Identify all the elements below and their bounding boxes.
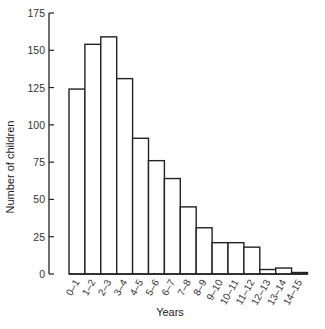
bar-9–10 (212, 243, 228, 274)
x-tick-label: 5–6 (143, 277, 161, 297)
histogram-chart: 0255075100125150175 0–11–22–33–44–55–66–… (0, 0, 325, 329)
bar-11–12 (244, 247, 260, 274)
y-axis-title: Number of children (4, 153, 16, 167)
bar-3–4 (117, 79, 133, 274)
x-axis-tick-labels: 0–11–22–33–44–55–66–77–88–99–1010–1111–1… (64, 277, 305, 307)
y-tick-label: 25 (33, 231, 45, 243)
y-tick-label: 100 (27, 119, 45, 131)
bar-5–6 (149, 161, 165, 274)
bar-4–5 (133, 138, 149, 274)
x-axis-title: Years (156, 306, 184, 318)
x-tick-label: 2–3 (96, 277, 114, 297)
y-tick-label: 0 (39, 268, 45, 280)
x-tick-label: 0–1 (64, 277, 82, 297)
bar-0–1 (69, 89, 85, 274)
bar-8–9 (196, 228, 212, 274)
bar-2–3 (101, 37, 117, 274)
bar-7–8 (180, 207, 196, 274)
x-tick-label: 7–8 (175, 277, 193, 297)
bars (69, 37, 308, 274)
bar-13–14 (276, 268, 292, 274)
y-tick-label: 50 (33, 193, 45, 205)
x-tick-label: 4–5 (127, 277, 145, 297)
bar-12–13 (260, 270, 276, 274)
x-tick-label: 3–4 (112, 277, 130, 297)
y-tick-label: 150 (27, 44, 45, 56)
x-tick-label: 1–2 (80, 277, 98, 297)
y-tick-label: 125 (27, 82, 45, 94)
bar-6–7 (164, 179, 180, 274)
bar-1–2 (85, 44, 101, 274)
bar-10–11 (228, 243, 244, 274)
y-tick-label: 75 (33, 156, 45, 168)
y-tick-label: 175 (27, 7, 45, 19)
y-axis: 0255075100125150175 (27, 7, 54, 280)
x-tick-label: 6–7 (159, 277, 177, 297)
